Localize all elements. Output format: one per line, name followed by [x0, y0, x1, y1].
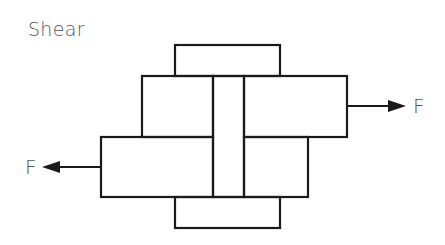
lower-left-plate [101, 137, 213, 197]
upper-right-plate [244, 76, 347, 137]
bottom-cap [175, 197, 280, 228]
force-arrow-left [42, 161, 101, 173]
arrowhead-left-icon [42, 161, 60, 173]
pin [213, 76, 244, 197]
upper-left-plate [142, 76, 213, 137]
top-cap [175, 45, 280, 76]
force-label-right: F [413, 94, 425, 118]
force-label-left: F [25, 155, 37, 179]
arrowhead-right-icon [388, 100, 406, 112]
force-arrow-right [347, 100, 406, 112]
shear-joint-diagram [0, 0, 445, 245]
lower-right-plate [244, 137, 308, 197]
